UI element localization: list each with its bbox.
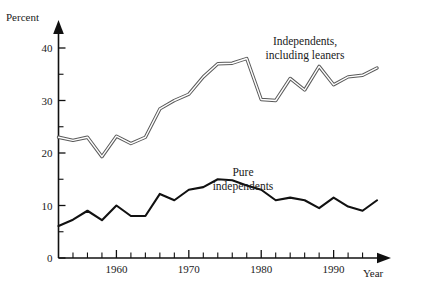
y-tick-label: 0 <box>47 252 53 264</box>
x-tick-label: 1970 <box>178 263 201 275</box>
x-tick-label: 1960 <box>105 263 128 275</box>
y-axis-title: Percent <box>6 11 39 23</box>
line-chart: 010203040 Percent 1960197019801990 Year … <box>0 0 424 297</box>
y-tick-labels: 010203040 <box>42 42 54 264</box>
y-axis-arrowhead <box>53 20 64 34</box>
x-axis-title: Year <box>363 267 384 279</box>
annotation-independents-line1: Independents, <box>273 35 337 48</box>
annotations-group: Independents, including leaners Pure ind… <box>213 35 345 193</box>
annotation-independents-line2: including leaners <box>266 49 345 62</box>
series-group <box>59 59 378 226</box>
y-tick-label: 10 <box>42 200 54 212</box>
chart-container: 010203040 Percent 1960197019801990 Year … <box>0 0 424 297</box>
y-tick-label: 40 <box>42 42 54 54</box>
x-tick-marks <box>73 250 363 258</box>
x-axis-arrowhead <box>377 253 391 264</box>
y-axis-group: 010203040 Percent <box>6 11 66 264</box>
x-tick-label: 1990 <box>323 263 346 275</box>
y-tick-label: 20 <box>42 147 54 159</box>
series-line-independents-outer <box>59 59 378 157</box>
x-axis-group: 1960197019801990 Year <box>59 250 392 279</box>
series-line-independents-inner <box>59 59 378 157</box>
y-tick-label: 30 <box>42 95 54 107</box>
x-tick-label: 1980 <box>250 263 273 275</box>
annotation-pure-line1: Pure <box>232 166 253 178</box>
annotation-pure-line2: independents <box>213 180 274 193</box>
x-tick-labels: 1960197019801990 <box>105 263 345 275</box>
